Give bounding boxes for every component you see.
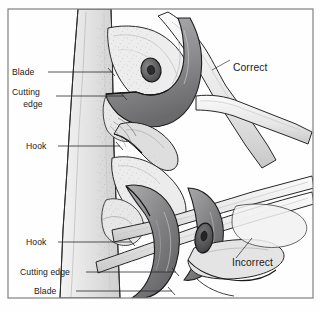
- label-verdict-correct: Correct: [233, 63, 267, 73]
- label-lower-cutting-edge: Cutting edge: [20, 267, 70, 277]
- label-verdict-incorrect: Incorrect: [232, 258, 273, 268]
- label-lower-hook: Hook: [26, 237, 46, 247]
- label-lower-blade: Blade: [34, 286, 56, 296]
- label-upper-cutting-edge-line1: Cutting: [12, 87, 40, 97]
- label-upper-blade: Blade: [12, 67, 34, 77]
- label-upper-hook: Hook: [26, 141, 46, 151]
- pruning-technique-figure: Blade Cutting edge Hook Hook Cutting edg…: [0, 0, 321, 311]
- label-upper-cutting-edge-line2: edge: [12, 99, 54, 109]
